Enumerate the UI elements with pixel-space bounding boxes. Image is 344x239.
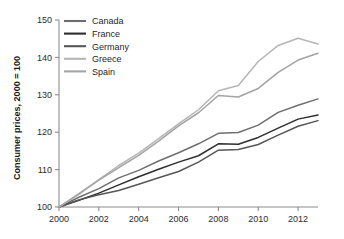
chart-legend: CanadaFranceGermanyGreeceSpain [64,16,130,76]
y-tick-label: 110 [38,165,52,175]
y-axis-title: Consumer prices, 2000 = 100 [12,56,22,180]
x-axis-ticks: 2000200220042006200820102012 [49,207,308,224]
legend-label-germany: Germany [92,42,130,52]
x-tick-label: 2004 [129,214,149,224]
legend-label-greece: Greece [92,54,122,64]
y-tick-label: 140 [37,53,52,63]
series-line-france [59,115,318,207]
legend-label-spain: Spain [92,67,115,77]
x-tick-label: 2006 [169,214,189,224]
x-tick-label: 2010 [248,214,268,224]
series-line-canada [59,99,318,207]
chart-container: Consumer prices, 2000 = 100 100110120130… [0,0,344,239]
x-tick-label: 2002 [89,214,109,224]
consumer-prices-line-chart: Consumer prices, 2000 = 100 100110120130… [0,0,344,239]
x-tick-label: 2008 [208,214,228,224]
y-tick-label: 100 [37,202,52,212]
legend-label-france: France [92,29,120,39]
y-tick-label: 130 [37,90,52,100]
x-tick-label: 2000 [49,214,69,224]
y-tick-label: 150 [37,15,52,25]
y-tick-label: 120 [37,127,52,137]
legend-label-canada: Canada [92,16,124,26]
x-tick-label: 2012 [288,214,308,224]
y-axis-ticks: 100110120130140150 [37,15,59,212]
